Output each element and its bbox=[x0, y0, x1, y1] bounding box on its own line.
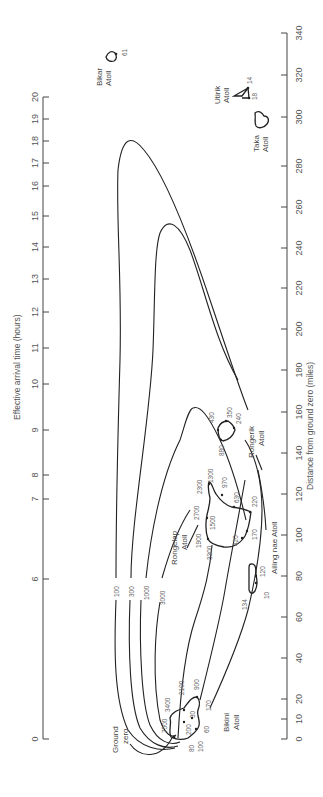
rongerik-label-2: Atoll bbox=[257, 430, 266, 446]
left-tick-label: 7 bbox=[30, 496, 40, 501]
right-tick-label: 240 bbox=[294, 240, 304, 255]
reading-134: 134 bbox=[241, 599, 248, 610]
left-tick-label: 0 bbox=[30, 736, 40, 741]
left-tick-label: 11 bbox=[30, 343, 40, 352]
reading-630: 630 bbox=[233, 492, 240, 503]
left-tick-label: 16 bbox=[30, 181, 40, 191]
left-tick-label: 6 bbox=[30, 576, 40, 581]
right-tick-label: 120 bbox=[294, 486, 304, 501]
contour-label-3000: 3000 bbox=[159, 590, 166, 605]
reading-14: 14 bbox=[246, 76, 253, 84]
left-tick-label: 12 bbox=[30, 307, 40, 317]
utirik-atoll: 14 18 Utirik Atoll bbox=[213, 76, 258, 104]
contour-label-1000: 1000 bbox=[143, 585, 150, 600]
reading-30: 30 bbox=[189, 710, 196, 718]
reading-120: 120 bbox=[259, 566, 266, 577]
right-tick-label: 260 bbox=[294, 199, 304, 214]
right-tick-label: 280 bbox=[294, 158, 304, 173]
reading-420: 420 bbox=[232, 535, 239, 546]
left-tick-label: 9 bbox=[30, 427, 40, 432]
reading-60: 60 bbox=[203, 725, 210, 733]
svg-text:Ground: Ground bbox=[111, 726, 120, 753]
right-tick-label: 200 bbox=[294, 321, 304, 336]
utirik-label-2: Atoll bbox=[222, 87, 231, 103]
bikini-label-2: Atoll bbox=[232, 714, 241, 730]
reading-10: 10 bbox=[263, 591, 270, 599]
reading-3300: 3300 bbox=[206, 545, 213, 560]
reading-970: 970 bbox=[221, 477, 228, 488]
left-axis: 067891011121314151617181920 Effective ar… bbox=[12, 92, 49, 742]
right-tick-label: 0 bbox=[294, 736, 304, 741]
reading-900: 900 bbox=[193, 679, 200, 690]
bikini-label: Bikini bbox=[222, 713, 231, 732]
right-tick-label: 40 bbox=[294, 653, 304, 663]
reading-350: 350 bbox=[226, 407, 233, 418]
reading-2700: 2700 bbox=[193, 505, 200, 520]
bikini-atoll: 7500 3400 2100 900 200 30 80 100 60 170 … bbox=[161, 679, 241, 752]
bikar-atoll: 61 Bikar Atoll bbox=[95, 48, 128, 86]
left-tick-label: 17 bbox=[30, 158, 40, 168]
rongelap-label: Rongelap bbox=[170, 530, 179, 565]
contour-label-300: 300 bbox=[128, 586, 135, 597]
ailinginae-atoll: 134 120 10 Ailing nae Atoll bbox=[241, 521, 279, 610]
taka-atoll: Taka Atoll bbox=[252, 112, 270, 152]
reading-61: 61 bbox=[121, 48, 128, 56]
reading-220: 220 bbox=[251, 496, 258, 507]
reading-3400: 3400 bbox=[164, 697, 171, 712]
bikar-label: Bikar bbox=[95, 67, 104, 86]
utirik-label: Utirik bbox=[213, 85, 222, 104]
left-axis-title: Effective arrival time (hours) bbox=[12, 314, 22, 420]
right-tick-label: 100 bbox=[294, 527, 304, 542]
right-tick-label: 160 bbox=[294, 404, 304, 419]
right-axis: 0102040608010012014016018020022024026028… bbox=[281, 25, 315, 741]
reading-1900: 1900 bbox=[195, 533, 202, 548]
right-tick-label: 140 bbox=[294, 445, 304, 460]
left-tick-label: 14 bbox=[30, 242, 40, 252]
reading-1300: 1300 bbox=[207, 468, 214, 483]
left-tick-label: 10 bbox=[30, 379, 40, 389]
reading-18: 18 bbox=[251, 92, 258, 100]
rongerik-label: Rongerik bbox=[247, 425, 256, 458]
reading-430: 430 bbox=[208, 412, 215, 423]
reading-2300: 2300 bbox=[196, 479, 203, 494]
taka-label-2: Atoll bbox=[261, 136, 270, 152]
reading-2100: 2100 bbox=[178, 680, 185, 695]
right-tick-label: 60 bbox=[294, 612, 304, 622]
reading-100: 100 bbox=[197, 741, 204, 752]
taka-label: Taka bbox=[252, 135, 261, 152]
reading-240: 240 bbox=[235, 413, 242, 424]
right-tick-label: 300 bbox=[294, 109, 304, 124]
reading-1500: 1500 bbox=[209, 515, 216, 530]
left-tick-label: 20 bbox=[30, 92, 40, 102]
right-tick-label: 340 bbox=[294, 25, 304, 40]
right-tick-label: 220 bbox=[294, 280, 304, 295]
contour-label-100: 100 bbox=[113, 586, 120, 597]
right-axis-title: Distance from ground zero (miles) bbox=[305, 362, 315, 490]
right-tick-label: 180 bbox=[294, 362, 304, 377]
right-tick-label: 20 bbox=[294, 694, 304, 704]
svg-text:zero: zero bbox=[121, 728, 130, 744]
fallout-contour-map: 067891011121314151617181920 Effective ar… bbox=[0, 0, 323, 797]
left-tick-label: 13 bbox=[30, 274, 40, 284]
left-tick-label: 15 bbox=[30, 211, 40, 221]
reading-170: 170 bbox=[205, 700, 212, 711]
left-tick-label: 18 bbox=[30, 136, 40, 146]
left-tick-label: 19 bbox=[30, 114, 40, 124]
reading-170b: 170 bbox=[251, 529, 258, 540]
reading-200: 200 bbox=[185, 724, 192, 735]
right-tick-label: 320 bbox=[294, 67, 304, 82]
ailinginae-label: Ailing nae Atoll bbox=[270, 521, 279, 574]
bikar-label-2: Atoll bbox=[104, 70, 113, 86]
left-tick-label: 8 bbox=[30, 472, 40, 477]
reading-80: 80 bbox=[188, 744, 195, 752]
reading-7500: 7500 bbox=[161, 718, 168, 733]
right-tick-label: 10 bbox=[294, 714, 304, 724]
right-tick-label: 80 bbox=[294, 571, 304, 581]
reading-880: 880 bbox=[218, 445, 225, 456]
